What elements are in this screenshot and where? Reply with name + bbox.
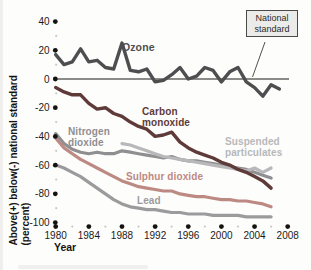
series-line-ozone [56, 43, 280, 96]
x-tick-dot-1992 [153, 224, 158, 229]
national-standard-callout: National standard [246, 10, 298, 37]
x-minor-tick-dot [137, 226, 139, 228]
x-minor-tick-dot [104, 226, 106, 228]
x-tick-label-2000: 2000 [210, 230, 233, 241]
air-quality-trends-figure: 40200-20-40-60-80-1001980198419881992199… [0, 0, 311, 270]
x-tick-label-2008: 2008 [277, 230, 300, 241]
series-label-lead: Lead [137, 196, 161, 207]
x-minor-tick-dot [270, 226, 272, 228]
x-tick-dot-2004 [252, 224, 257, 229]
x-tick-dot-2008 [285, 224, 290, 229]
y-tick-dot-40 [53, 19, 58, 24]
x-axis-title: Year [54, 241, 76, 253]
y-tick-label--80: -80 [35, 188, 50, 199]
y-tick-label--20: -20 [35, 102, 50, 113]
y-tick-dot--60 [53, 163, 58, 168]
y-tick-dot--20 [53, 105, 58, 110]
y-axis-title-units: (percent) [20, 203, 31, 246]
x-tick-label-1992: 1992 [144, 230, 167, 241]
y-minor-tick-dot [55, 207, 57, 209]
x-minor-tick-dot [237, 226, 239, 228]
y-minor-tick-dot [55, 121, 57, 123]
y-minor-tick-dot [55, 92, 57, 94]
x-tick-label-1988: 1988 [111, 230, 134, 241]
cropped-caption-remnant [18, 265, 148, 269]
y-tick-dot-20 [53, 48, 58, 53]
y-tick-label-40: 40 [38, 16, 50, 27]
x-tick-dot-2000 [219, 224, 224, 229]
y-minor-tick-dot [55, 35, 57, 37]
y-tick-dot--80 [53, 191, 58, 196]
x-tick-dot-1980 [53, 224, 58, 229]
x-tick-dot-1996 [186, 224, 191, 229]
series-label-sulphur-dioxide: Sulphur dioxide [126, 172, 203, 183]
x-minor-tick-dot [171, 226, 173, 228]
x-tick-label-2004: 2004 [243, 230, 266, 241]
y-minor-tick-dot [55, 178, 57, 180]
series-label-suspended-particulates: Suspended particulates [225, 137, 305, 158]
y-tick-label--40: -40 [35, 131, 50, 142]
x-minor-tick-dot [71, 226, 73, 228]
y-minor-tick-dot [55, 64, 57, 66]
series-label-ozone: Ozone [122, 42, 155, 53]
x-tick-label-1996: 1996 [177, 230, 200, 241]
y-tick-label--100: -100 [29, 217, 49, 228]
y-tick-dot--40 [53, 134, 58, 139]
y-axis-title: Above(+) below(-) national standard(perc… [8, 51, 32, 246]
x-tick-label-1980: 1980 [45, 230, 68, 241]
y-tick-dot-0 [53, 77, 58, 82]
y-axis-title-text: Above(+) below(-) national standard [8, 75, 19, 245]
callout-pointer-line [253, 42, 266, 77]
y-minor-tick-dot [55, 150, 57, 152]
x-tick-dot-1984 [86, 224, 91, 229]
chart-canvas: 40200-20-40-60-80-1001980198419881992199… [0, 0, 311, 270]
x-tick-label-1984: 1984 [78, 230, 101, 241]
series-label-carbon-monoxide: Carbon monoxide [142, 107, 200, 128]
y-tick-label--60: -60 [35, 160, 50, 171]
x-tick-dot-1988 [120, 224, 125, 229]
y-tick-label-0: 0 [44, 74, 50, 85]
y-tick-label-20: 20 [38, 45, 50, 56]
x-minor-tick-dot [204, 226, 206, 228]
series-label-nitrogen-dioxide: Nitrogen dioxide [68, 127, 126, 148]
